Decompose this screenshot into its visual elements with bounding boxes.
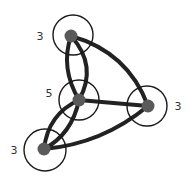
edge-middle-bottomleft-a [44, 100, 79, 149]
label-middle: 5 [46, 87, 53, 100]
node-right[interactable] [142, 100, 155, 113]
node-top[interactable] [65, 30, 78, 43]
label-bottom-left: 3 [11, 144, 18, 157]
label-top: 3 [37, 30, 44, 43]
node-bottom-left[interactable] [38, 143, 51, 156]
graph-diagram: 3 5 3 3 [0, 0, 196, 182]
edge-middle-right [79, 100, 148, 106]
label-right: 3 [175, 100, 182, 113]
node-middle[interactable] [73, 94, 86, 107]
